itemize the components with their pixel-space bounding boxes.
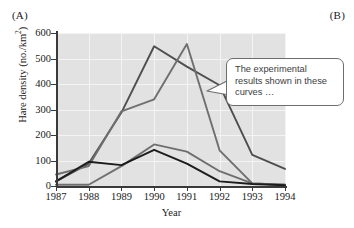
x-axis-title: Year (56, 207, 287, 218)
y-axis-tick (51, 84, 56, 85)
callout-bubble: The experimental results shown in these … (226, 58, 344, 106)
y-axis-line (56, 31, 58, 188)
series-lines (56, 33, 285, 186)
series-line (56, 150, 285, 185)
y-axis-tick-label: 100 (3, 155, 51, 166)
chart-plot-area (56, 33, 285, 186)
y-axis-tick (51, 161, 56, 162)
y-axis-tick (51, 110, 56, 111)
y-axis-tick (51, 33, 56, 34)
y-axis-tick (51, 59, 56, 60)
callout-text: The experimental results shown in these … (235, 64, 327, 97)
gridline-vertical (285, 33, 286, 186)
y-axis-title: Hare density (no./km2) (14, 5, 28, 145)
x-axis-tick-label: 1994 (262, 191, 308, 202)
y-axis-tick-label: 0 (3, 180, 51, 191)
panel-b-label: (B) (330, 9, 345, 21)
y-axis-tick (51, 135, 56, 136)
figure-panel-a: (A) (B) 0100200300400500600 198719881989… (0, 0, 354, 228)
